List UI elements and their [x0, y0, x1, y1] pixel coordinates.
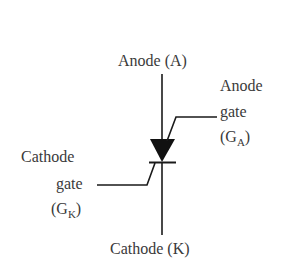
cathode-label: Cathode (K)	[110, 240, 190, 258]
anode-gate-open: (G	[220, 128, 237, 145]
cathode-gate-label-line1: Cathode	[21, 148, 74, 166]
cathode-gate-close: )	[76, 200, 81, 217]
scs-symbol-diagram: Anode (A) Anode gate (GA) Cathode gate (…	[0, 0, 289, 276]
anode-gate-subscript: A	[237, 136, 245, 148]
anode-gate-close: )	[245, 128, 250, 145]
anode-gate-lead	[167, 117, 217, 141]
cathode-gate-label-line2: gate	[56, 175, 83, 193]
anode-gate-label-line2: gate	[220, 103, 247, 121]
cathode-gate-label-symbol: (GK)	[51, 200, 81, 223]
anode-gate-label-symbol: (GA)	[220, 128, 250, 151]
cathode-gate-subscript: K	[68, 208, 76, 220]
cathode-gate-open: (G	[51, 200, 68, 217]
cathode-gate-lead	[97, 163, 155, 185]
anode-label: Anode (A)	[118, 52, 187, 70]
diode-triangle-icon	[150, 139, 175, 162]
anode-gate-label-line1: Anode	[220, 77, 263, 95]
